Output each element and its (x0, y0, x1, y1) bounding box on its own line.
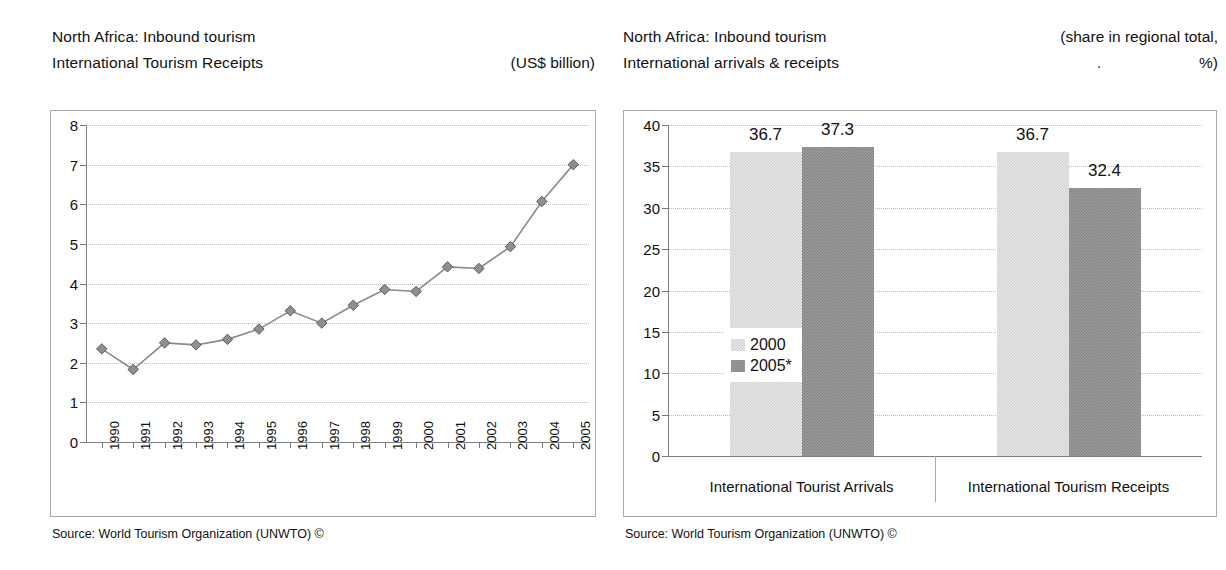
y-axis-tick-label: 30 (632, 200, 660, 215)
right-plot-area: 051015202530354036.737.3International To… (668, 125, 1202, 456)
right-chart-title-line1: North Africa: Inbound tourism (623, 28, 827, 45)
bar-2005star (1069, 188, 1141, 456)
data-point-marker (222, 334, 232, 344)
left-plot-area: 0123456781990199119921993199419951996199… (86, 125, 589, 442)
y-axis-tick-label: 5 (52, 236, 78, 251)
right-chart-title-line2: International arrivals & receipts (623, 54, 839, 71)
chart-legend: 20002005* (724, 328, 802, 382)
y-axis-tick-label: 10 (632, 366, 660, 381)
y-tick-mark (80, 442, 86, 443)
y-axis-tick-label: 20 (632, 283, 660, 298)
y-axis-line (668, 125, 669, 456)
right-header-line2-row: International arrivals & receipts %) (623, 54, 1218, 80)
data-point-marker (379, 284, 389, 294)
data-point-marker (474, 263, 484, 273)
y-axis-tick-label: 0 (52, 435, 78, 450)
bar-2005star (802, 147, 874, 456)
x-tick-mark (353, 442, 354, 448)
x-tick-mark (385, 442, 386, 448)
right-chart-panel: North Africa: Inbound tourism (share in … (613, 0, 1226, 570)
x-tick-mark (573, 442, 574, 448)
y-axis-tick-label: 40 (632, 118, 660, 133)
legend-label: 2000 (750, 336, 786, 354)
bar-2000 (730, 152, 802, 456)
right-chart-unit-line1: (share in regional total, (1060, 28, 1218, 46)
category-label: International Tourist Arrivals (668, 478, 935, 495)
x-tick-mark (290, 442, 291, 448)
left-chart-panel: North Africa: Inbound tourism Internatio… (0, 0, 613, 570)
x-tick-mark (165, 442, 166, 448)
line-series-international-tourism-receipts (86, 125, 589, 442)
data-point-marker (254, 324, 264, 334)
x-tick-mark (510, 442, 511, 448)
y-axis-tick-label: 1 (52, 395, 78, 410)
left-source-note: Source: World Tourism Organization (UNWT… (52, 527, 324, 541)
right-chart-frame: 051015202530354036.737.3International To… (623, 110, 1217, 517)
legend-row: 2000 (731, 334, 792, 355)
y-axis-tick-label: 8 (52, 118, 78, 133)
y-axis-tick-label: 25 (632, 242, 660, 257)
bar-value-label: 36.7 (983, 125, 1083, 145)
y-axis-tick-label: 2 (52, 355, 78, 370)
x-tick-mark (196, 442, 197, 448)
left-chart-frame: 0123456781990199119921993199419951996199… (50, 110, 596, 517)
right-source-note: Source: World Tourism Organization (UNWT… (625, 527, 897, 541)
data-point-marker (348, 300, 358, 310)
legend-row: 2005* (731, 355, 792, 376)
bar-2000 (997, 152, 1069, 456)
category-label: International Tourism Receipts (935, 478, 1202, 495)
y-axis-tick-label: 35 (632, 159, 660, 174)
y-axis-tick-label: 5 (632, 407, 660, 422)
x-tick-mark (448, 442, 449, 448)
x-tick-mark (416, 442, 417, 448)
left-chart-title-line2: International Tourism Receipts (52, 54, 263, 71)
data-point-marker (285, 306, 295, 316)
y-axis-tick-label: 15 (632, 324, 660, 339)
category-separator (935, 456, 936, 502)
x-tick-mark (479, 442, 480, 448)
left-header-line1-row: North Africa: Inbound tourism (52, 28, 595, 54)
right-chart-header: North Africa: Inbound tourism (share in … (623, 28, 1218, 80)
y-axis-tick-label: 4 (52, 276, 78, 291)
line-path (102, 165, 574, 370)
legend-swatch-2000 (731, 339, 745, 351)
legend-label: 2005* (750, 357, 792, 375)
data-point-marker (191, 340, 201, 350)
x-tick-mark (133, 442, 134, 448)
bar-value-label: 32.4 (1055, 161, 1155, 181)
right-chart-unit-line2: %) (1199, 54, 1218, 72)
x-tick-mark (227, 442, 228, 448)
legend-swatch-2005star (731, 360, 745, 372)
y-axis-tick-label: 6 (52, 197, 78, 212)
left-header-line2-row: International Tourism Receipts (US$ bill… (52, 54, 595, 80)
right-header-line1-row: North Africa: Inbound tourism (share in … (623, 28, 1218, 54)
y-tick-mark (662, 456, 668, 457)
y-axis-tick-label: 0 (632, 449, 660, 464)
x-tick-mark (542, 442, 543, 448)
x-tick-mark (259, 442, 260, 448)
stray-speck (1098, 66, 1100, 68)
data-point-marker (97, 344, 107, 354)
left-chart-header: North Africa: Inbound tourism Internatio… (52, 28, 595, 80)
x-tick-mark (102, 442, 103, 448)
left-chart-unit-label: (US$ billion) (511, 54, 595, 72)
bar-value-label: 37.3 (788, 120, 888, 140)
y-axis-tick-label: 7 (52, 157, 78, 172)
data-point-marker (317, 318, 327, 328)
left-chart-title-line1: North Africa: Inbound tourism (52, 28, 256, 45)
y-axis-tick-label: 3 (52, 316, 78, 331)
x-tick-mark (322, 442, 323, 448)
data-point-marker (505, 241, 515, 251)
